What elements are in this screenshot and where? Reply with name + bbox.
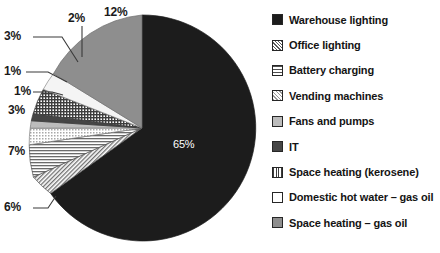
legend-item-domestic-hot-water-gas-oil[interactable]: Domestic hot water – gas oil (272, 185, 440, 210)
dark-gray-swatch (272, 141, 283, 152)
slice-label-7pct: 7% (8, 144, 25, 158)
legend-item-warehouse-lighting[interactable]: Warehouse lighting (272, 7, 440, 32)
legend-label: Battery charging (289, 64, 374, 76)
legend-item-vending-machines[interactable]: Vending machines (272, 83, 440, 108)
slice-label-1pct-fans: 1% (14, 84, 31, 98)
pie-chart-svg (0, 0, 270, 253)
legend-label: Warehouse lighting (289, 14, 388, 26)
legend-label: Office lighting (289, 39, 361, 51)
leader-line-6pct (33, 196, 56, 208)
legend-item-it[interactable]: IT (272, 134, 440, 159)
light-gray-swatch (272, 116, 283, 127)
slice-label-3pct-vending: 3% (8, 103, 25, 117)
legend-label: Fans and pumps (289, 115, 374, 127)
white-swatch (272, 192, 283, 203)
legend-label: Domestic hot water – gas oil (289, 191, 433, 203)
legend-item-battery-charging[interactable]: Battery charging (272, 58, 440, 83)
legend-label: Space heating (kerosene) (289, 166, 419, 178)
slice-label-3pct-kerosene: 3% (4, 29, 21, 43)
chart-canvas: 12% 2% 3% 1% 1% 3% 7% 6% 65% Warehouse l… (0, 0, 440, 253)
legend-item-fans-and-pumps[interactable]: Fans and pumps (272, 109, 440, 134)
solid-black-swatch (272, 14, 283, 25)
slice-label-65pct: 65% (173, 138, 194, 150)
legend-item-space-heating-kerosene[interactable]: Space heating (kerosene) (272, 159, 440, 184)
pie-chart: 12% 2% 3% 1% 1% 3% 7% 6% 65% (0, 0, 270, 253)
legend-label: Space heating – gas oil (289, 217, 407, 229)
slice-label-2pct: 2% (68, 11, 85, 25)
legend-item-office-lighting[interactable]: Office lighting (272, 32, 440, 57)
slice-label-1pct-it: 1% (4, 64, 21, 78)
legend-item-space-heating-gas-oil[interactable]: Space heating – gas oil (272, 210, 440, 235)
grid-lines-swatch (272, 167, 283, 178)
slice-label-12pct: 12% (104, 5, 127, 19)
crosshatch-swatch (272, 40, 283, 51)
chart-legend: Warehouse lighting Office lighting Batte… (272, 7, 440, 236)
slice-label-6pct: 6% (4, 200, 21, 214)
horizontal-lines-swatch (272, 65, 283, 76)
legend-label: Vending machines (289, 90, 383, 102)
medium-gray-swatch (272, 217, 283, 228)
legend-label: IT (289, 141, 298, 153)
fine-dots-swatch (272, 90, 283, 101)
